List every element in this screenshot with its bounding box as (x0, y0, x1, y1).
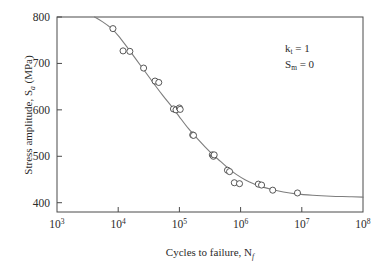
y-tick-label: 400 (33, 197, 51, 209)
x-axis-title-subscript: f (252, 252, 255, 261)
y-tick-label: 500 (33, 150, 51, 162)
y-axis-tick-labels: 400500600700800 (33, 11, 51, 209)
x-tick-exponent: 6 (244, 217, 248, 226)
data-point-marker (156, 79, 162, 85)
x-tick-label: 108 (355, 217, 371, 231)
plot-frame-group (57, 17, 363, 212)
x-tick-label: 107 (294, 217, 310, 231)
data-point-marker (177, 106, 183, 112)
annotation-value: = 1 (293, 42, 310, 54)
x-axis-title-group: Cycles to failure, Nf (166, 246, 255, 261)
y-tick-label: 700 (33, 57, 51, 69)
data-point-marker (141, 65, 147, 71)
y-axis-title-unit: (MPa) (22, 55, 35, 86)
fatigue-sn-curve-figure: 103104105106107108 400500600700800 Cycle… (0, 0, 384, 271)
y-tick-label: 800 (33, 11, 51, 23)
annotation-value: = 0 (297, 58, 315, 70)
data-point-marker (236, 181, 242, 187)
x-tick-label: 103 (49, 217, 65, 231)
y-tick-label: 600 (33, 104, 51, 116)
x-axis-title: Cycles to failure, Nf (166, 246, 255, 261)
data-point-marker (190, 132, 196, 138)
data-point-marker (127, 48, 133, 54)
data-point-marker (120, 48, 126, 54)
x-tick-exponent: 7 (306, 217, 310, 226)
data-point-marker (294, 190, 300, 196)
x-tick-exponent: 5 (183, 217, 187, 226)
chart-annotations: kt = 1Sm = 0 (285, 42, 315, 72)
x-tick-exponent: 8 (367, 217, 371, 226)
data-point-marker (227, 169, 233, 175)
data-point-marker (270, 187, 276, 193)
y-axis-ticks (57, 17, 62, 203)
data-point-markers (110, 26, 301, 196)
chart-canvas: 103104105106107108 400500600700800 Cycle… (0, 0, 384, 271)
data-point-marker (211, 152, 217, 158)
x-tick-exponent: 3 (61, 217, 65, 226)
data-point-marker (259, 182, 265, 188)
x-axis-ticks (118, 207, 302, 212)
x-tick-label: 105 (172, 217, 188, 231)
x-tick-label: 104 (111, 217, 127, 231)
x-tick-exponent: 4 (122, 217, 126, 226)
annotation-stress-concentration-factor: kt = 1 (285, 42, 310, 56)
data-point-marker (110, 26, 116, 32)
x-tick-label: 106 (233, 217, 249, 231)
x-axis-tick-labels: 103104105106107108 (49, 217, 371, 231)
annotation-mean-stress: Sm = 0 (285, 58, 315, 72)
plot-frame (57, 17, 363, 212)
